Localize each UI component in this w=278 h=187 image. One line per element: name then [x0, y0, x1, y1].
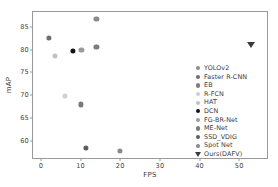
x-tick-label: 10: [76, 162, 85, 170]
data-point-me-net: [78, 102, 83, 107]
y-tick-mark: [30, 72, 33, 73]
y-tick-mark: [30, 140, 33, 141]
x-tick-mark: [120, 158, 121, 161]
data-point-hat: [52, 53, 57, 58]
legend-item[interactable]: Ours(DAFV): [192, 150, 266, 159]
legend-dot-icon: [192, 107, 204, 116]
legend-item-label: SSD_VDIG: [204, 133, 237, 142]
legend-item-label: EB: [204, 81, 213, 90]
y-tick-mark: [30, 49, 33, 50]
legend-item[interactable]: R-FCN: [192, 90, 266, 99]
chart-legend: YOLOv2Faster R-CNNEBR-FCNHATDCNFG-BR-Net…: [192, 64, 266, 159]
x-tick-label: 20: [116, 162, 125, 170]
legend-item-label: ME-Net: [204, 124, 228, 133]
y-tick-label: 65: [20, 114, 29, 122]
data-point-dcn: [70, 48, 75, 53]
data-point-yolov2: [94, 17, 99, 22]
y-tick-label: 85: [20, 23, 29, 31]
y-tick-mark: [30, 117, 33, 118]
legend-item[interactable]: EB: [192, 81, 266, 90]
y-tick-mark: [30, 95, 33, 96]
data-point-eb: [94, 44, 99, 49]
legend-item-label: Faster R-CNN: [204, 73, 247, 82]
data-point-faster-r-cnn: [46, 35, 51, 40]
legend-item[interactable]: DCN: [192, 107, 266, 116]
y-tick-label: 70: [20, 91, 29, 99]
legend-item-label: FG-BR-Net: [204, 116, 238, 125]
legend-item[interactable]: YOLOv2: [192, 64, 266, 73]
legend-item-label: HAT: [204, 98, 217, 107]
legend-item[interactable]: ME-Net: [192, 124, 266, 133]
scatter-chart-figure: 60657075808501020304050 mAP FPS YOLOv2Fa…: [0, 0, 278, 187]
x-tick-mark: [159, 158, 160, 161]
x-tick-label: 30: [156, 162, 165, 170]
legend-dot-icon: [192, 124, 204, 133]
data-point-r-fcn: [62, 93, 67, 98]
x-tick-mark: [40, 158, 41, 161]
legend-item[interactable]: FG-BR-Net: [192, 116, 266, 125]
x-axis-label: FPS: [32, 171, 268, 179]
x-tick-label: 50: [235, 162, 244, 170]
legend-dot-icon: [192, 116, 204, 125]
legend-dot-icon: [192, 64, 204, 73]
y-tick-label: 80: [20, 46, 29, 54]
legend-item[interactable]: HAT: [192, 98, 266, 107]
x-tick-mark: [80, 158, 81, 161]
legend-item[interactable]: SSD_VDIG: [192, 133, 266, 142]
legend-triangle-icon: [192, 150, 204, 159]
legend-dot-icon: [192, 81, 204, 90]
y-tick-mark: [30, 27, 33, 28]
legend-item[interactable]: Spot Net: [192, 141, 266, 150]
data-point-spot-net: [118, 149, 123, 154]
y-tick-label: 60: [20, 137, 29, 145]
legend-dot-icon: [192, 73, 204, 82]
data-point-ssd-vdig: [83, 145, 88, 150]
legend-dot-icon: [192, 90, 204, 99]
legend-item-label: YOLOv2: [204, 64, 229, 73]
legend-dot-icon: [192, 141, 204, 150]
x-tick-label: 40: [195, 162, 204, 170]
legend-item-label: Ours(DAFV): [204, 150, 242, 159]
legend-item[interactable]: Faster R-CNN: [192, 73, 266, 82]
data-point-fg-br-net: [79, 48, 84, 53]
data-point-ours-dafv: [247, 42, 255, 48]
legend-item-label: Spot Net: [204, 141, 233, 150]
legend-dot-icon: [192, 133, 204, 142]
legend-item-label: R-FCN: [204, 90, 224, 99]
legend-item-label: DCN: [204, 107, 218, 116]
legend-dot-icon: [192, 98, 204, 107]
x-tick-label: 0: [39, 162, 43, 170]
y-axis-label: mAP: [5, 77, 13, 94]
y-tick-label: 75: [20, 68, 29, 76]
